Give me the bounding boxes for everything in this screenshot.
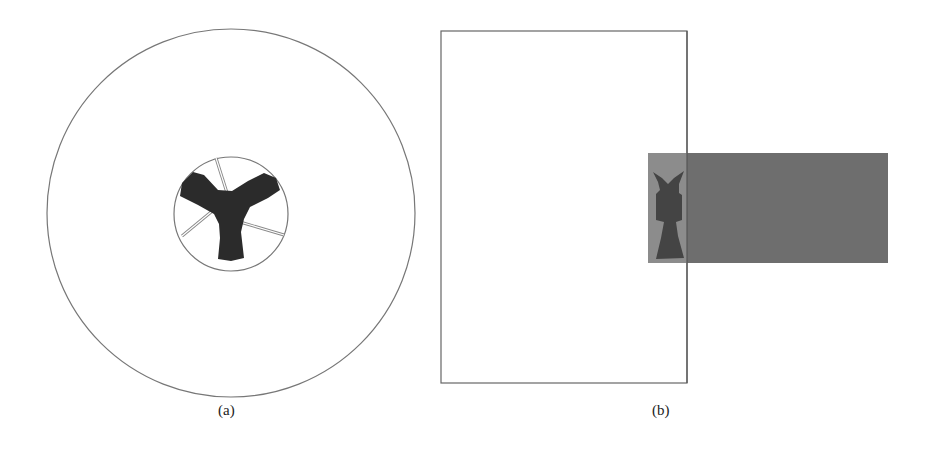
figure-canvas: [0, 0, 933, 453]
cylinder-body: [687, 153, 888, 263]
panel-a: [47, 29, 415, 397]
caption-b: (b): [652, 402, 670, 419]
panel-b: [441, 31, 888, 383]
caption-a: (a): [218, 402, 235, 419]
